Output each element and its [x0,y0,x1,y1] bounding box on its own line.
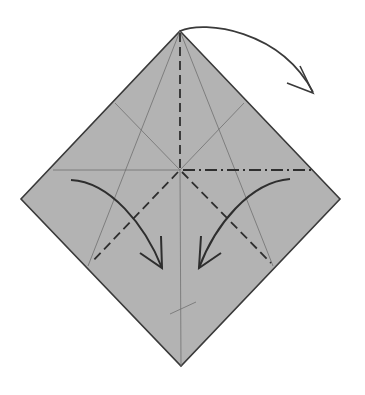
origami-diagram [0,0,365,395]
